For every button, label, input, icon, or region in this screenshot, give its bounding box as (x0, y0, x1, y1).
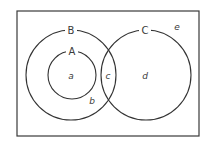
set-a-label: A (69, 46, 76, 57)
venn-diagram: B A C a b c d e (0, 0, 213, 145)
set-b-label: B (68, 25, 75, 36)
region-b-label: b (89, 96, 95, 106)
region-c-label: c (106, 71, 111, 81)
region-d-label: d (142, 71, 148, 81)
region-e-label: e (174, 22, 180, 32)
set-c-label: C (142, 25, 149, 36)
region-a-label: a (68, 71, 74, 81)
